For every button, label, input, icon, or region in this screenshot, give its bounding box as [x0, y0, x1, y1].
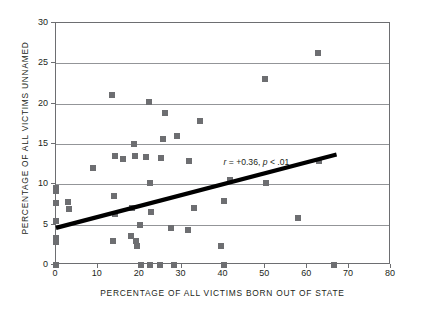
x-tick-label: 10	[92, 268, 102, 278]
y-tick-mark	[51, 143, 55, 144]
data-point	[147, 180, 153, 186]
x-tick-label: 30	[176, 268, 186, 278]
x-tick-mark	[223, 264, 224, 268]
x-tick-label: 0	[52, 268, 57, 278]
x-tick-label: 70	[343, 268, 353, 278]
data-point	[132, 153, 138, 159]
data-point	[160, 136, 166, 142]
y-tick-label: 25	[2, 57, 48, 67]
data-point	[137, 222, 143, 228]
gridline	[56, 63, 389, 64]
data-point	[53, 188, 59, 194]
data-point	[112, 153, 118, 159]
data-point	[112, 211, 118, 217]
x-tick-mark	[348, 264, 349, 268]
data-point	[90, 165, 96, 171]
y-tick-mark	[51, 224, 55, 225]
y-tick-label: 10	[2, 178, 48, 188]
y-tick-mark	[51, 103, 55, 104]
data-point	[185, 227, 191, 233]
data-point	[110, 238, 116, 244]
gridline	[56, 144, 389, 145]
x-tick-mark	[306, 264, 307, 268]
data-point	[53, 200, 59, 206]
data-point	[65, 199, 71, 205]
gridline	[56, 104, 389, 105]
data-point	[129, 205, 135, 211]
y-tick-label: 30	[2, 17, 48, 27]
gridline	[56, 225, 389, 226]
x-tick-mark	[264, 264, 265, 268]
data-point	[120, 156, 126, 162]
y-tick-mark	[51, 183, 55, 184]
p-symbol: p	[263, 157, 268, 167]
data-point	[134, 243, 140, 249]
x-tick-label: 80	[385, 268, 395, 278]
r-symbol: r	[224, 157, 227, 167]
data-point	[146, 99, 152, 105]
gridline	[56, 184, 389, 185]
data-point	[147, 262, 153, 268]
x-tick-label: 60	[301, 268, 311, 278]
data-point	[262, 76, 268, 82]
data-point	[66, 206, 72, 212]
data-point	[143, 154, 149, 160]
data-point	[315, 50, 321, 56]
correlation-annotation: r = +0.36, p < .01	[224, 157, 290, 167]
plot-area: r = +0.36, p < .01	[55, 22, 390, 264]
data-point	[158, 155, 164, 161]
y-tick-label: 0	[2, 259, 48, 269]
y-tick-mark	[51, 22, 55, 23]
y-tick-label: 15	[2, 138, 48, 148]
data-point	[221, 198, 227, 204]
x-tick-label: 50	[259, 268, 269, 278]
data-point	[162, 110, 168, 116]
data-point	[316, 158, 322, 164]
x-tick-label: 20	[134, 268, 144, 278]
data-point	[111, 193, 117, 199]
scatter-plot-figure: PERCENTAGE OF ALL VICTIMS UNNAMED PERCEN…	[0, 0, 426, 311]
data-point	[197, 118, 203, 124]
data-point	[191, 205, 197, 211]
data-point	[174, 133, 180, 139]
data-point	[168, 225, 174, 231]
data-point	[295, 215, 301, 221]
x-tick-mark	[139, 264, 140, 268]
p-value: < .01	[270, 157, 289, 167]
data-point	[227, 177, 233, 183]
r-value: = +0.36,	[229, 157, 261, 167]
x-tick-mark	[55, 264, 56, 268]
y-tick-mark	[51, 62, 55, 63]
x-tick-mark	[181, 264, 182, 268]
data-point	[109, 92, 115, 98]
x-axis-title: PERCENTAGE OF ALL VICTIMS BORN OUT OF ST…	[55, 288, 390, 298]
data-point	[131, 141, 137, 147]
data-point	[157, 262, 163, 268]
x-tick-mark	[390, 264, 391, 268]
data-point	[186, 158, 192, 164]
data-point	[331, 262, 337, 268]
y-tick-label: 5	[2, 219, 48, 229]
data-point	[218, 243, 224, 249]
x-tick-mark	[97, 264, 98, 268]
data-point	[263, 180, 269, 186]
data-point	[53, 239, 59, 245]
y-tick-label: 20	[2, 98, 48, 108]
data-point	[148, 209, 154, 215]
x-tick-label: 40	[217, 268, 227, 278]
